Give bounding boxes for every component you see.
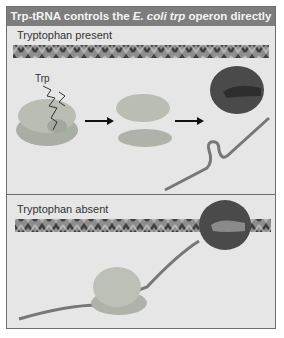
- arrow-icon: [85, 117, 114, 125]
- figure-title: Trp-tRNA controls the E. coli trp operon…: [7, 7, 275, 26]
- rna-polymerase: [199, 200, 251, 250]
- rna-polymerase: [210, 66, 264, 114]
- ribosome-with-trna: [16, 86, 78, 146]
- panel-tryptophan-present: Tryptophan present Trp: [7, 26, 275, 193]
- translating-ribosome: [91, 267, 147, 315]
- mrna-hairpin: [165, 118, 269, 190]
- tryptophan-present-diagram: Trp: [7, 26, 277, 193]
- tryptophan-absent-diagram: [7, 195, 277, 330]
- trp-label: Trp: [35, 73, 50, 84]
- arrow-icon: [175, 117, 204, 125]
- panel-tryptophan-absent: Tryptophan absent: [7, 194, 275, 330]
- dna-helix: [13, 45, 269, 58]
- figure-frame: Trp-tRNA controls the E. coli trp operon…: [6, 6, 276, 329]
- ribosome-subunits: [116, 94, 172, 147]
